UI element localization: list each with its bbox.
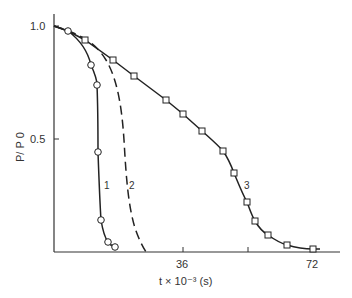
y-axis-title: P/ P 0 — [14, 132, 26, 162]
curve-3-markers — [82, 37, 316, 252]
curve-label-3: 3 — [244, 180, 250, 191]
curve-label-2: 2 — [129, 180, 135, 191]
x-tick-label-36: 36 — [176, 258, 188, 270]
y-tick-label-05: 0.5 — [30, 133, 45, 145]
curve-3 — [54, 26, 320, 249]
x-tick-label-72: 72 — [306, 258, 318, 270]
x-axis-title: t × 10⁻³ (s) — [159, 275, 212, 287]
chart: 1.0 0.5 36 72 t × 10⁻³ (s) P/ P 0 — [0, 0, 352, 298]
y-tick-label-1: 1.0 — [30, 20, 45, 32]
curve-label-1: 1 — [104, 180, 110, 191]
